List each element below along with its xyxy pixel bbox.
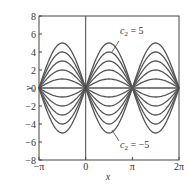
svg-text:2: 2 — [31, 65, 36, 76]
svg-text:c2 = 5: c2 = 5 — [120, 25, 144, 38]
svg-text:6: 6 — [31, 29, 36, 40]
svg-text:8: 8 — [31, 11, 36, 22]
curve-c2-3 — [39, 88, 179, 115]
x-axis-label: x — [105, 171, 111, 182]
curve-c2-5 — [39, 88, 179, 133]
svg-text:−4: −4 — [25, 119, 36, 130]
curve-c21 — [39, 79, 179, 88]
curve-c25 — [39, 43, 179, 88]
svg-text:−6: −6 — [25, 137, 36, 148]
curve-c2-1 — [39, 88, 179, 97]
curve-c23 — [39, 61, 179, 88]
y-axis-label: y — [23, 85, 34, 91]
svg-text:c2 = −5: c2 = −5 — [120, 139, 149, 152]
svg-text:−π: −π — [34, 161, 45, 172]
x-ticks: −π0π2π — [34, 157, 184, 172]
svg-text:0: 0 — [83, 161, 88, 172]
svg-text:4: 4 — [31, 47, 36, 58]
svg-text:π: π — [130, 161, 135, 172]
svg-text:−2: −2 — [25, 101, 36, 112]
chart: 86420−2−4−6−8 −π0π2π x y c2 = 5 c2 = −5 — [0, 0, 191, 189]
svg-text:2π: 2π — [174, 161, 184, 172]
curve-family — [39, 43, 179, 133]
annotation-c2-neg: c2 = −5 — [112, 130, 149, 152]
